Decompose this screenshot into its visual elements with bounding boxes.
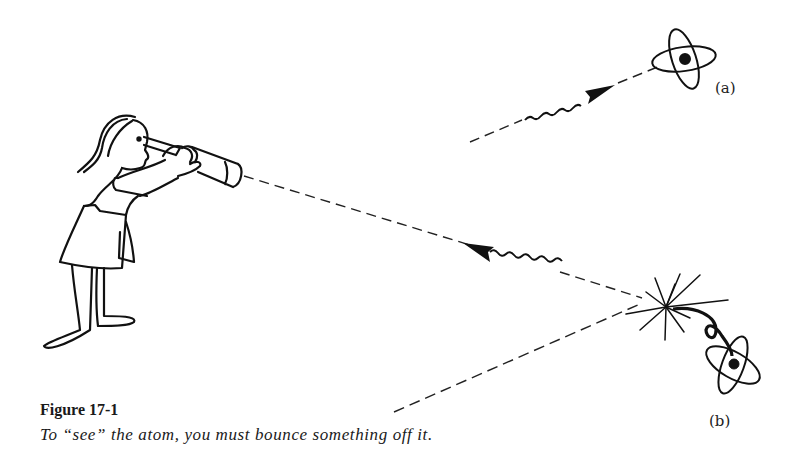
incident-photon-a-dashed-2: [618, 66, 660, 83]
recoiling-atom-b: [673, 308, 765, 396]
atom-a: [651, 26, 718, 92]
incident-photon-b: [394, 304, 640, 412]
scattered-photon-dashed: [560, 272, 642, 298]
incident-photon-a-dashed-1: [470, 120, 522, 142]
panel-label-a: (a): [715, 79, 736, 97]
girl-with-telescope: [44, 116, 241, 348]
figure-number: Figure 17-1: [40, 401, 118, 419]
figure-illustration: [0, 0, 806, 469]
figure-caption: To “see” the atom, you must bounce somet…: [40, 425, 433, 445]
panel-label-b: (b): [709, 412, 730, 430]
sight-line: [244, 176, 470, 245]
scattered-photon-b: [463, 243, 562, 262]
incident-photon-a: [525, 85, 615, 120]
